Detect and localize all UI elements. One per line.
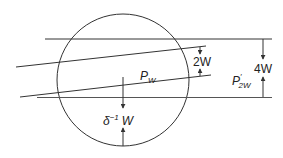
upper-slanted-line [16,46,206,67]
total-label: 4W [254,62,273,76]
lower-slanted-line [20,75,211,97]
offset-label: δ−1W [103,113,135,128]
diagram-canvas: PW 2W 4W P′2W δ−1W [0,0,283,158]
region-label: PW [140,69,157,85]
gap-label: 2W [193,55,212,69]
outer-region-label: P′2W [232,72,252,90]
